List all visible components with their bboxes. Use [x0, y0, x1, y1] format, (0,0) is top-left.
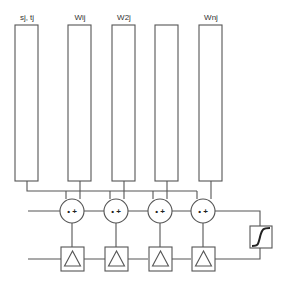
svg-text:• +: • + [111, 207, 121, 216]
bar-label-wn: Wnj [204, 13, 218, 22]
weight-bar-2 [112, 25, 135, 181]
multiply-add-node-1: • + [60, 199, 84, 223]
sigmoid-activation-block [250, 226, 272, 248]
input-bar [15, 25, 38, 181]
delay-block-2 [105, 247, 128, 271]
multiply-add-node-3: • + [148, 199, 172, 223]
delay-block-3 [149, 247, 172, 271]
multiply-add-node-4: • + [191, 199, 215, 223]
weight-bar-n [199, 25, 222, 181]
node-to-delay-lines [72, 223, 203, 247]
delay-block-1 [61, 247, 84, 271]
svg-text:• +: • + [198, 207, 208, 216]
weight-bar-3 [155, 25, 178, 181]
delay-block-4 [192, 247, 215, 271]
weight-bar-1 [68, 25, 91, 181]
input-bus [27, 181, 197, 191]
bar-label-w1: Wij [74, 13, 85, 22]
neuron-diagram: sj, tj Wij W2j Wnj • + • + • + • + [0, 0, 287, 285]
svg-text:• +: • + [67, 207, 77, 216]
svg-text:• +: • + [155, 207, 165, 216]
bar-label-w2: W2j [117, 13, 131, 22]
bar-label-input: sj, tj [20, 13, 34, 22]
multiply-add-node-2: • + [104, 199, 128, 223]
